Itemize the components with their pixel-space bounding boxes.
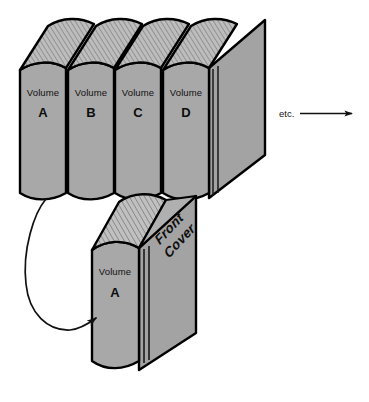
shelf-row-group: Volume A Volume B Volume C Volume D xyxy=(20,19,265,199)
book-C-face xyxy=(115,63,161,200)
callout-arrow-path xyxy=(25,199,96,330)
book-C-volume-word: Volume xyxy=(122,87,154,98)
front-book-group: Volume A Front Cover xyxy=(92,194,198,370)
front-book-spine-face xyxy=(92,242,139,368)
book-D-volume-word: Volume xyxy=(170,87,202,98)
book-A-volume-word: Volume xyxy=(27,87,59,98)
books-diagram: Volume A Volume B Volume C Volume D etc. xyxy=(0,0,369,402)
book-B-face xyxy=(68,63,114,200)
front-book-volume-word: Volume xyxy=(99,266,131,277)
book-B-letter: B xyxy=(86,105,95,120)
illustration-canvas: Volume A Volume B Volume C Volume D etc. xyxy=(0,0,369,402)
book-B-volume-word: Volume xyxy=(75,87,107,98)
book-D-face xyxy=(163,63,209,200)
book-A-face xyxy=(20,63,66,200)
continuation-group: etc. xyxy=(279,108,352,119)
front-book-letter: A xyxy=(110,285,120,300)
curved-arrow-icon xyxy=(25,199,96,330)
book-D-letter: D xyxy=(181,105,190,120)
etc-label: etc. xyxy=(279,108,294,119)
book-A-letter: A xyxy=(38,105,48,120)
book-C-letter: C xyxy=(133,105,143,120)
